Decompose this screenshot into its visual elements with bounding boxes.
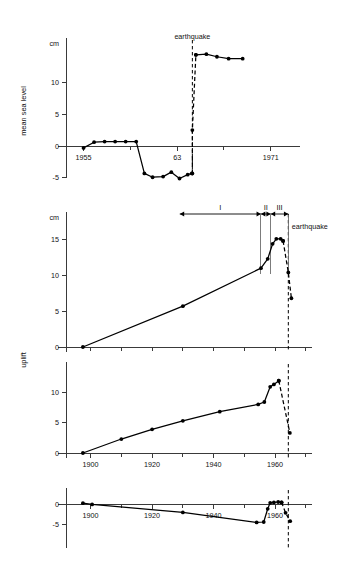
panel-sea-level-data-point: [161, 175, 165, 179]
panel-uplift-large-unit-label: cm: [49, 213, 59, 222]
panel-sea-level-y-tick-label: 0: [55, 142, 59, 151]
panel-subsidence-data-point: [266, 507, 270, 511]
phase-label-I: I: [219, 203, 221, 212]
panel-uplift-small: 05101900192019401960: [51, 362, 312, 469]
panel-subsidence-data-point: [255, 521, 259, 525]
panel-uplift-small-data-point: [81, 451, 85, 455]
panel-uplift-large-y-tick-label: 15: [51, 235, 59, 244]
panel-uplift-small-series-0: [83, 381, 279, 453]
panel-sea-level-data-point: [178, 177, 182, 181]
panel-sea-level-x-tick-label: 1955: [76, 153, 92, 162]
panel-subsidence-x-tick-label: 1900: [83, 511, 99, 520]
panel-uplift-large-phase-II: II: [261, 203, 271, 275]
panel-uplift-large: 051015cmIIIIIIearthquake: [49, 203, 327, 353]
panel-uplift-large-y-tick-label: 5: [55, 307, 59, 316]
panel-subsidence-data-point: [284, 511, 288, 515]
phase-arrow-left: [261, 211, 265, 216]
panel-sea-level: -50510cm1955631971earthquake: [49, 32, 300, 183]
panel-uplift-small-data-point: [262, 400, 266, 404]
panel-uplift-large-data-point: [266, 257, 270, 261]
axis-title-mean-sea-level: mean sea level: [19, 86, 28, 136]
panel-subsidence-data-point: [81, 501, 85, 505]
panel-sea-level-unit-label: cm: [49, 39, 59, 48]
panel-uplift-small-data-point: [119, 437, 123, 441]
panel-uplift-small-y-tick-label: 5: [55, 418, 59, 427]
panel-subsidence-data-point: [268, 501, 272, 505]
panel-sea-level-data-point: [124, 140, 128, 144]
panel-uplift-small-data-point: [181, 419, 185, 423]
panel-sea-level-data-point: [227, 57, 231, 61]
phase-arrow-left: [180, 211, 184, 216]
panel-sea-level-y-tick-label: 5: [55, 110, 59, 119]
panel-sea-level-y-tick-label: 10: [51, 78, 59, 87]
panel-uplift-small-data-point: [268, 385, 272, 389]
panel-subsidence-data-point: [280, 501, 284, 505]
panel-subsidence-x-tick-label: 1960: [267, 511, 283, 520]
panel-uplift-small-data-point: [256, 403, 260, 407]
panel-sea-level-x-tick-label: 63: [173, 153, 181, 162]
panel-subsidence-y-tick-label: -5: [53, 520, 59, 529]
panel-subsidence-x-tick-label: 1920: [144, 511, 160, 520]
panel-uplift-large-y-tick-label: 0: [55, 343, 59, 352]
panel-uplift-large-data-point: [181, 304, 185, 308]
panel-uplift-large-annotation: earthquake: [292, 222, 328, 231]
panel-uplift-large-data-point: [271, 242, 275, 246]
phase-arrow-right: [257, 211, 261, 216]
phase-label-II: II: [264, 203, 268, 212]
panel-uplift-large-data-point: [81, 345, 85, 349]
panel-sea-level-annotation: earthquake: [174, 32, 210, 41]
panel-sea-level-data-point: [92, 140, 96, 144]
panel-uplift-small-y-tick-label: 10: [51, 388, 59, 397]
panel-uplift-large-data-point: [281, 239, 285, 243]
panel-subsidence-y-tick-label: 0: [55, 500, 59, 509]
panel-subsidence-data-point: [276, 500, 280, 504]
panel-uplift-small-data-point: [277, 379, 281, 383]
panel-subsidence-data-point: [262, 520, 266, 524]
panel-uplift-large-data-point: [286, 271, 290, 275]
panel-subsidence-data-point: [288, 519, 292, 523]
panel-uplift-large-data-point: [289, 296, 293, 300]
panel-uplift-small-x-tick-label: 1960: [267, 460, 283, 469]
panel-uplift-small-x-tick-label: 1900: [83, 460, 99, 469]
phase-label-III: III: [276, 203, 282, 212]
figure-root: -50510cm1955631971earthquake051015cmIIII…: [0, 0, 343, 571]
panel-sea-level-data-point: [205, 52, 209, 56]
axis-titles: mean sea leveluplift: [19, 86, 28, 368]
panel-uplift-small-y-tick-label: 0: [55, 449, 59, 458]
panel-sea-level-data-point: [142, 172, 146, 176]
panel-sea-level-data-point: [186, 173, 190, 177]
panel-uplift-large-y-tick-label: 10: [51, 271, 59, 280]
panel-sea-level-data-point: [151, 175, 155, 179]
panel-subsidence-data-point: [90, 503, 94, 507]
panel-uplift-small-x-tick-label: 1920: [144, 460, 160, 469]
panel-sea-level-data-point: [113, 140, 117, 144]
panel-subsidence-data-point: [272, 501, 276, 505]
panel-uplift-small-x-tick-label: 1940: [206, 460, 222, 469]
phase-arrow-right: [284, 211, 288, 216]
panel-sea-level-data-point: [169, 170, 173, 174]
panel-sea-level-data-point: [82, 146, 86, 150]
panel-sea-level-data-point: [241, 57, 245, 61]
panel-sea-level-data-point: [190, 128, 194, 132]
panel-uplift-large-phase-I: I: [180, 203, 261, 275]
panel-uplift-small-data-point: [272, 382, 276, 386]
panel-uplift-small-data-point: [218, 410, 222, 414]
panel-sea-level-series-2: [196, 54, 243, 58]
axis-title-uplift: uplift: [19, 352, 28, 368]
panel-uplift-small-data-point: [288, 431, 292, 435]
panel-uplift-large-series-0: [83, 239, 283, 347]
panel-uplift-large-data-point: [274, 237, 278, 241]
panel-sea-level-y-tick-label: -5: [53, 173, 59, 182]
panel-sea-level-x-tick-label: 1971: [263, 153, 279, 162]
panel-sea-level-data-point: [103, 140, 107, 144]
phase-arrow-right: [266, 211, 270, 216]
panel-uplift-large-series-1: [283, 241, 291, 298]
panel-sea-level-data-point: [215, 55, 219, 59]
panel-sea-level-series-1: [192, 55, 196, 174]
panel-sea-level-data-point: [194, 53, 198, 57]
scientific-figure: -50510cm1955631971earthquake051015cmIIII…: [0, 0, 343, 571]
panel-uplift-small-data-point: [150, 427, 154, 431]
panel-subsidence-data-point: [181, 511, 185, 515]
panel-subsidence: -501900192019401960: [53, 488, 312, 548]
panel-sea-level-data-point: [190, 172, 194, 176]
